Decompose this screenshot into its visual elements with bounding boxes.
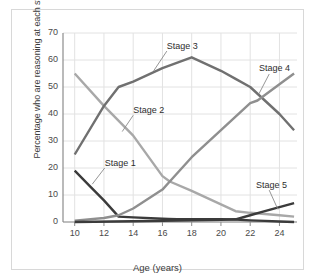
chart-frame: Percentage who are reasoning at each sta…	[11, 9, 304, 270]
annotation-leader-line	[259, 74, 269, 94]
y-tick-label: 40	[36, 108, 58, 118]
x-tick-label: 24	[267, 228, 291, 238]
y-tick-label: 70	[36, 27, 58, 37]
series-label-stage-5: Stage 5	[256, 180, 287, 190]
y-tick-label: 60	[36, 54, 58, 64]
x-tick-label: 20	[209, 228, 233, 238]
x-tick-label: 16	[150, 228, 174, 238]
annotation-leader-line	[92, 168, 104, 184]
series-label-stage-3: Stage 3	[167, 41, 198, 51]
y-tick-label: 50	[36, 81, 58, 91]
series-label-stage-2: Stage 2	[133, 105, 164, 115]
chart-figure: Percentage who are reasoning at each sta…	[0, 0, 316, 280]
annotation-leader-line	[269, 190, 278, 209]
x-tick-label: 14	[121, 228, 145, 238]
x-tick-label: 22	[238, 228, 262, 238]
series-label-stage-4: Stage 4	[259, 63, 290, 73]
y-tick-label: 30	[36, 135, 58, 145]
series-label-stage-1: Stage 1	[105, 158, 136, 168]
y-tick-label: 0	[36, 216, 58, 226]
x-tick-label: 12	[92, 228, 116, 238]
x-tick-label: 10	[63, 228, 87, 238]
y-tick-label: 10	[36, 189, 58, 199]
x-tick-label: 18	[180, 228, 204, 238]
y-tick-label: 20	[36, 162, 58, 172]
